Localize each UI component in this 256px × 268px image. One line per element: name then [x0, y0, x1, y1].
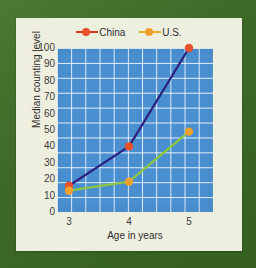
- data-point: [185, 127, 193, 135]
- chart-plot-wrapper: 0102030405060708090100 345 Age in years …: [16, 18, 242, 251]
- data-point: [185, 44, 193, 52]
- y-tick-label: 0: [17, 207, 55, 217]
- poster-background: China U.S. 0102030405060708090100 345 Ag…: [0, 0, 256, 268]
- plot-series-layer: [57, 48, 213, 212]
- y-tick-label: 10: [17, 191, 55, 201]
- y-tick-label: 30: [17, 158, 55, 168]
- x-axis-title: Age in years: [57, 230, 213, 241]
- y-axis-title: Median counting level: [31, 5, 42, 155]
- data-point: [65, 186, 73, 194]
- x-axis-ticks: 345: [57, 216, 213, 230]
- x-tick-label: 4: [126, 216, 132, 227]
- data-point: [125, 177, 133, 185]
- chart-card: China U.S. 0102030405060708090100 345 Ag…: [16, 18, 242, 251]
- y-tick-label: 20: [17, 174, 55, 184]
- x-tick-label: 3: [66, 216, 72, 227]
- x-tick-label: 5: [186, 216, 192, 227]
- series-line-china: [69, 48, 189, 186]
- data-point: [125, 142, 133, 150]
